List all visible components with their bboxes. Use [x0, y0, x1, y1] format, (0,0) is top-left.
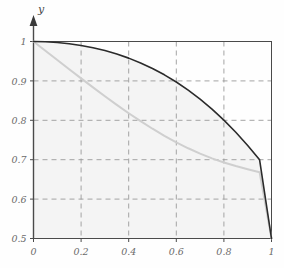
x-tick-label: 0.4	[121, 246, 136, 257]
y-tick-label: 0.7	[11, 154, 27, 165]
chart-fill-region	[34, 42, 272, 239]
y-tick-label: 0.9	[11, 76, 26, 87]
x-tick-label: 0.8	[216, 246, 231, 257]
y-tick-label: 1	[20, 36, 26, 47]
y-tick-label: 0.8	[11, 115, 26, 126]
x-axis-tick-labels: 00.20.40.60.81	[30, 246, 274, 257]
y-axis-arrow-icon	[30, 15, 38, 26]
chart-plot-svg: 0.50.60.70.80.91 00.20.40.60.81 y	[0, 0, 284, 268]
x-axis-ticks	[34, 239, 272, 243]
x-tick-label: 1	[268, 246, 274, 257]
y-tick-label: 0.6	[11, 194, 26, 205]
x-tick-label: 0.2	[74, 246, 89, 257]
chart-figure: 0.50.60.70.80.91 00.20.40.60.81 y	[0, 0, 284, 268]
y-axis-tick-labels: 0.50.60.70.80.91	[11, 36, 27, 244]
x-tick-label: 0.6	[169, 246, 184, 257]
y-axis-label: y	[37, 3, 45, 16]
y-tick-label: 0.5	[11, 233, 26, 244]
x-tick-label: 0	[30, 246, 36, 257]
